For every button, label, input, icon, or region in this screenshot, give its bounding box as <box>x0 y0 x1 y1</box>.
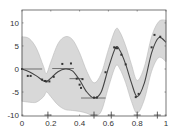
data-point <box>120 54 122 56</box>
inducing-input-markers <box>44 112 160 119</box>
data-point <box>138 93 140 95</box>
data-point <box>45 80 47 82</box>
data-point <box>96 97 98 99</box>
plus-icon <box>154 112 161 119</box>
x-tick-label: 0 <box>20 119 25 128</box>
data-point <box>116 47 118 49</box>
data-point <box>135 96 137 98</box>
y-tick-label: -5 <box>12 88 20 97</box>
data-point <box>70 62 72 64</box>
data-point <box>151 46 153 48</box>
x-tick-label: 0.8 <box>132 119 144 128</box>
data-point <box>27 75 29 77</box>
band-area <box>22 20 166 116</box>
plus-icon <box>44 112 51 119</box>
data-point <box>41 79 43 81</box>
data-point <box>79 84 81 86</box>
data-point <box>93 97 95 99</box>
x-tick-label: 0.4 <box>74 119 86 128</box>
y-tick-label: -10 <box>7 111 19 120</box>
data-point <box>53 76 55 78</box>
data-point <box>125 63 127 65</box>
data-point <box>159 36 161 38</box>
plus-icon <box>108 112 115 119</box>
data-point <box>80 87 82 89</box>
gp-regression-chart: 00.20.40.60.81 1050-5-10 <box>0 0 174 134</box>
data-point <box>105 71 107 73</box>
data-point <box>48 80 50 82</box>
y-tick-label: 5 <box>15 42 20 51</box>
data-point <box>153 34 155 36</box>
y-tick-label: 0 <box>15 65 20 74</box>
x-tick-label: 1 <box>164 119 169 128</box>
data-point <box>30 75 32 77</box>
data-point <box>81 78 83 80</box>
y-tick-label: 10 <box>10 19 19 28</box>
x-tick-label: 0.6 <box>103 119 115 128</box>
x-tick-label: 0.2 <box>45 119 57 128</box>
data-point <box>61 63 63 65</box>
data-point <box>76 78 78 80</box>
confidence-band <box>22 20 166 116</box>
